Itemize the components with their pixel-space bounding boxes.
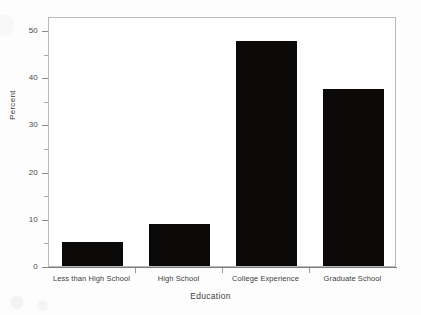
y-tick-label: 20 bbox=[14, 168, 38, 177]
plot-area bbox=[49, 18, 395, 266]
y-tick-label: 0 bbox=[14, 262, 38, 271]
y-tick-label: 30 bbox=[14, 120, 38, 129]
y-tick-label: 40 bbox=[14, 73, 38, 82]
x-tick-label: Less than High School bbox=[48, 274, 135, 283]
chart-page: Percent 01020304050 Less than High Schoo… bbox=[0, 0, 421, 315]
plot-frame bbox=[48, 17, 396, 267]
x-tick-mark bbox=[135, 268, 136, 273]
x-axis-title: Education bbox=[0, 291, 421, 301]
bar bbox=[236, 41, 297, 266]
bar bbox=[323, 89, 384, 266]
bar bbox=[62, 242, 123, 266]
x-tick-label: Graduate School bbox=[309, 274, 396, 283]
x-tick-mark bbox=[222, 268, 223, 273]
x-tick-label: College Experience bbox=[222, 274, 309, 283]
x-tick-mark bbox=[309, 268, 310, 273]
y-tick-mark bbox=[42, 267, 48, 268]
y-axis-title: Percent bbox=[8, 90, 17, 120]
x-tick-label: High School bbox=[135, 274, 222, 283]
y-tick-label: 50 bbox=[14, 26, 38, 35]
y-tick-label: 10 bbox=[14, 215, 38, 224]
bar bbox=[149, 224, 210, 266]
